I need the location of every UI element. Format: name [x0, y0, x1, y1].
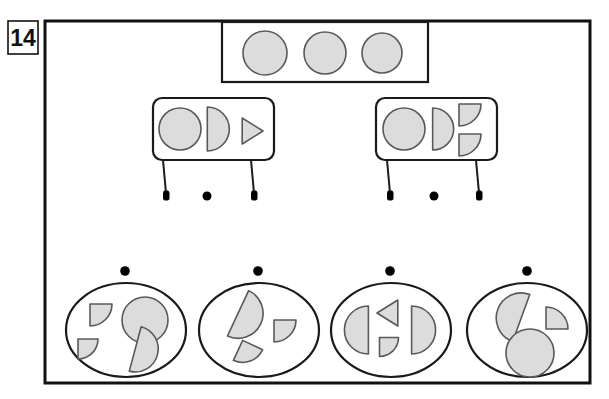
- table-leg-left: [387, 160, 390, 193]
- shape-circle-table-left-0: [159, 108, 201, 150]
- top-rectangle-tray: [222, 22, 428, 82]
- item-number-label: 14: [10, 25, 36, 51]
- option-2-marker-dot: [253, 266, 263, 276]
- item-number-group: 14: [8, 21, 38, 54]
- shape-circle-top-1: [304, 32, 346, 74]
- options-group: [66, 266, 587, 377]
- option-4-marker-dot: [522, 266, 532, 276]
- shape-circle-table-right-0: [383, 108, 425, 150]
- option-1-marker-dot: [120, 266, 130, 276]
- table-leg-left: [163, 160, 166, 193]
- table-foot-left: [164, 191, 170, 200]
- table-center-dot: [430, 192, 439, 201]
- puzzle-stage: 14: [0, 0, 609, 399]
- shape-circle-option-4-2: [506, 329, 554, 377]
- puzzle-figure: 14: [0, 0, 609, 399]
- option-2[interactable]: [199, 266, 319, 377]
- shape-circle-top-0: [243, 31, 287, 75]
- shape-circle-top-2: [362, 33, 402, 73]
- table-foot-right: [252, 191, 258, 200]
- option-3[interactable]: [331, 266, 451, 377]
- table-foot-left: [388, 191, 394, 200]
- option-2-outline[interactable]: [199, 283, 319, 377]
- option-1[interactable]: [66, 266, 186, 377]
- table-left: [153, 98, 274, 201]
- table-leg-right: [476, 160, 479, 193]
- top-tray-group: [222, 22, 428, 82]
- option-3-marker-dot: [385, 266, 395, 276]
- table-right: [376, 98, 497, 201]
- table-leg-right: [251, 160, 254, 193]
- tables-group: [153, 98, 497, 201]
- option-4[interactable]: [467, 266, 587, 377]
- table-center-dot: [203, 192, 212, 201]
- table-foot-right: [477, 191, 483, 200]
